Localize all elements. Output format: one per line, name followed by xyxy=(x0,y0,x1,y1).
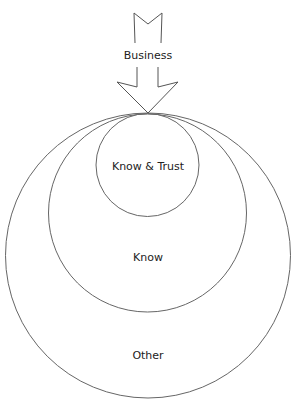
middle-circle-label: Know xyxy=(133,251,163,264)
middle-circle-know xyxy=(49,114,247,312)
arrow-label-business: Business xyxy=(124,49,173,62)
business-arrow xyxy=(117,13,178,113)
outer-circle-label: Other xyxy=(132,349,163,362)
inner-circle-label: Know & Trust xyxy=(112,160,184,173)
